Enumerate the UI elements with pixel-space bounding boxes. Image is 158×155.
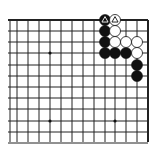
black-stone — [100, 37, 111, 48]
black-stone — [132, 71, 143, 82]
black-stone — [110, 48, 121, 59]
black-stone — [121, 48, 132, 59]
black-stone — [100, 26, 111, 37]
white-stone — [121, 37, 132, 48]
star-point — [48, 51, 51, 54]
stones — [100, 15, 143, 82]
black-stone — [132, 60, 143, 71]
white-stone — [132, 48, 143, 59]
star-point — [113, 119, 116, 122]
black-stone — [100, 48, 111, 59]
star-point — [48, 119, 51, 122]
white-stone — [110, 26, 121, 37]
white-stone — [110, 37, 121, 48]
go-board — [0, 0, 158, 155]
white-stone — [132, 37, 143, 48]
